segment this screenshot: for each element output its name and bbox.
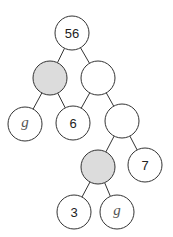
tree-edge [81,48,90,64]
tree-edge [82,182,90,197]
node-label: 6 [69,116,76,131]
tree-node: g [8,107,42,141]
node-circle [81,61,115,95]
tree-node: 6 [56,106,90,140]
tree-nodes: 56g673g [8,16,162,229]
node-circle [105,104,139,138]
tree-edge [58,93,66,108]
tree-edge [130,136,137,150]
tree-edge [106,136,114,152]
tree-edge [33,93,42,109]
node-circle [33,61,67,95]
tree-node [105,104,139,138]
tree-edge [106,93,113,106]
tree-node-shaded [81,150,115,184]
tree-edge [57,48,64,62]
tree-node-shaded [33,61,67,95]
node-label: g [21,114,29,130]
tree-node: 3 [57,195,91,229]
node-label: 56 [65,26,79,41]
tree-node: 56 [55,16,89,50]
tree-edge [81,93,89,108]
node-label: g [113,202,121,218]
tree-edge [105,183,111,197]
tree-node: 7 [128,148,162,182]
node-label: 7 [141,158,148,173]
node-circle [81,150,115,184]
node-label: 3 [70,205,77,220]
tree-node: g [100,195,134,229]
tree-diagram: 56g673g [0,0,173,237]
tree-node [81,61,115,95]
